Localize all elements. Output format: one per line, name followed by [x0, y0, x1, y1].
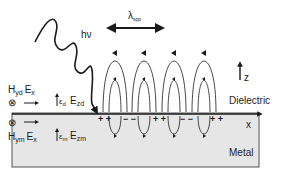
photon-label: hν: [81, 29, 92, 40]
wavelength-label: λspp: [128, 10, 141, 22]
spp-diagram: λspp hν: [0, 0, 283, 182]
svg-text:Ezd: Ezd: [70, 95, 84, 107]
out-of-plane-icon: ⊗: [8, 117, 16, 128]
dielectric-field-lines: [103, 61, 216, 112]
field-direction-arrows: [112, 50, 206, 81]
charge-minus: − −: [180, 114, 193, 124]
metal-label: Metal: [229, 147, 253, 158]
x-axis-label: x: [246, 119, 251, 130]
charge-minus: − −: [123, 114, 136, 124]
svg-text:εd: εd: [59, 97, 66, 107]
charge-plus: + +: [98, 114, 111, 124]
out-of-plane-icon: ⊗: [8, 97, 16, 108]
charge-plus: + +: [210, 114, 223, 124]
svg-text:HydEx: HydEx: [8, 84, 35, 97]
charge-plus: + +: [153, 114, 166, 124]
z-axis-label: z: [244, 72, 249, 83]
dielectric-field-labels: HydEx ⊗ εd Ezd: [8, 84, 84, 108]
dielectric-label: Dielectric: [229, 95, 270, 106]
